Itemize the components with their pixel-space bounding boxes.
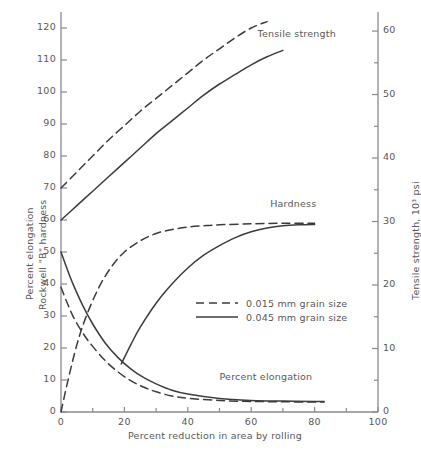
axis-tick-label: 10 bbox=[383, 342, 396, 353]
legend-item-solid: 0.045 mm grain size bbox=[196, 310, 347, 324]
axis-tick-label: 80 bbox=[43, 149, 56, 160]
axis-tick-label: 0 bbox=[58, 416, 64, 427]
axis-tick-label: 0 bbox=[383, 405, 389, 416]
legend-swatch-solid-icon bbox=[196, 312, 238, 322]
chart-legend: 0.015 mm grain size 0.045 mm grain size bbox=[196, 296, 347, 324]
legend-swatch-dashed-icon bbox=[196, 298, 238, 308]
axis-tick-label: 40 bbox=[383, 151, 396, 162]
legend-item-dashed: 0.015 mm grain size bbox=[196, 296, 347, 310]
chart-figure: 0102030405060708090100110120010203040506… bbox=[0, 0, 421, 452]
axis-tick-label: 30 bbox=[383, 215, 396, 226]
axis-tick-label: 20 bbox=[118, 416, 131, 427]
axis-tick-label: 20 bbox=[43, 341, 56, 352]
axis-tick-label: 70 bbox=[43, 181, 56, 192]
axis-tick-label: 0 bbox=[50, 405, 56, 416]
curve-annotation: Tensile strength bbox=[258, 28, 336, 39]
curve-annotation: Hardness bbox=[270, 198, 316, 209]
x-axis-title: Percent reduction in area by rolling bbox=[128, 430, 302, 441]
axis-tick-label: 90 bbox=[43, 117, 56, 128]
axis-tick-label: 20 bbox=[383, 278, 396, 289]
axis-tick-label: 40 bbox=[181, 416, 194, 427]
axis-tick-label: 100 bbox=[37, 85, 56, 96]
axis-tick-label: 10 bbox=[43, 373, 56, 384]
axis-tick-label: 80 bbox=[308, 416, 321, 427]
legend-label-dashed: 0.015 mm grain size bbox=[246, 298, 347, 309]
y-axis-left-title-line1: Percent elongation bbox=[24, 207, 35, 300]
axis-tick-label: 120 bbox=[37, 21, 56, 32]
axis-tick-label: 60 bbox=[245, 416, 258, 427]
curves-group bbox=[61, 22, 324, 412]
y-axis-right-title: Tensile strength, 10³ psi bbox=[410, 181, 421, 300]
series-curve bbox=[61, 50, 283, 220]
axis-tick-label: 110 bbox=[37, 53, 56, 64]
legend-label-solid: 0.045 mm grain size bbox=[246, 312, 347, 323]
axis-tick-label: 60 bbox=[383, 24, 396, 35]
series-curve bbox=[121, 224, 314, 364]
series-curve bbox=[61, 22, 267, 188]
y-axis-left-title-line2: Rockwell "B" hardness bbox=[37, 200, 48, 310]
axis-tick-label: 50 bbox=[383, 88, 396, 99]
chart-plot-area bbox=[0, 0, 421, 452]
axis-tick-label: 30 bbox=[43, 309, 56, 320]
curve-annotation: Percent elongation bbox=[220, 371, 313, 382]
axes-group bbox=[61, 12, 378, 412]
axis-tick-label: 100 bbox=[368, 416, 387, 427]
